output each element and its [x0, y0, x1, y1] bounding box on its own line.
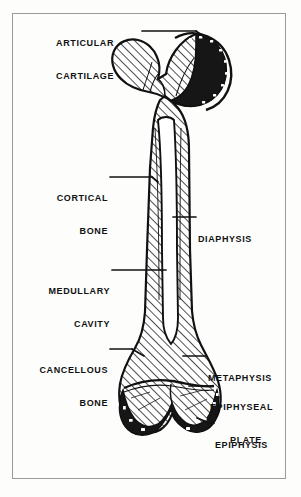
label-articular-cartilage-line1: ARTICULAR	[28, 38, 114, 49]
label-cortical-bone-line2: BONE	[26, 226, 108, 237]
label-cortical-bone: CORTICAL BONE	[26, 171, 108, 259]
label-articular-cartilage-line2: CARTILAGE	[28, 71, 114, 82]
label-cancellous-bone-line2: BONE	[18, 398, 108, 409]
label-epiphysis-line1: EPIPHYSIS	[215, 440, 297, 451]
label-epiphyseal-plate-line1: EPIPHYSEAL	[210, 402, 296, 413]
label-cancellous-bone: CANCELLOUS BONE	[18, 343, 108, 431]
label-medullary-cavity: MEDULLARY CAVITY	[18, 264, 110, 352]
label-medullary-cavity-line2: CAVITY	[18, 319, 110, 330]
label-diaphysis-line1: DIAPHYSIS	[198, 234, 294, 245]
label-articular-cartilage: ARTICULAR CARTILAGE	[28, 16, 114, 104]
label-diaphysis: DIAPHYSIS	[198, 212, 294, 267]
label-medullary-cavity-line1: MEDULLARY	[18, 286, 110, 297]
label-cortical-bone-line1: CORTICAL	[26, 193, 108, 204]
femur-diagram-figure: ARTICULAR CARTILAGE CORTICAL BONE DIAPHY…	[0, 0, 301, 497]
label-cancellous-bone-line1: CANCELLOUS	[18, 365, 108, 376]
label-epiphysis: EPIPHYSIS	[215, 418, 297, 473]
